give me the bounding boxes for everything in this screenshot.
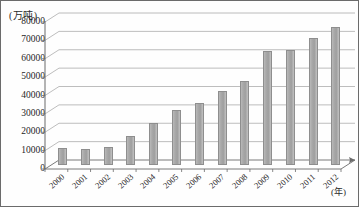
bar-2005 — [172, 110, 181, 165]
bar-2003 — [126, 136, 135, 164]
bar-2001 — [81, 149, 90, 165]
bar-2006 — [195, 103, 204, 165]
bar-2008 — [240, 81, 249, 165]
bar-2007 — [218, 91, 227, 165]
bar-2002 — [104, 147, 113, 165]
bar-2004 — [149, 123, 158, 165]
bar-2011 — [309, 38, 318, 165]
chart-plot-area: (万吨) (年) 0100002000030000400005000060000… — [1, 1, 358, 206]
bar-2012 — [331, 27, 340, 165]
bar-2009 — [263, 51, 272, 165]
bar-2000 — [58, 148, 67, 165]
bar-2010 — [286, 50, 295, 165]
chart-frame: (万吨) (年) 0100002000030000400005000060000… — [0, 0, 359, 207]
